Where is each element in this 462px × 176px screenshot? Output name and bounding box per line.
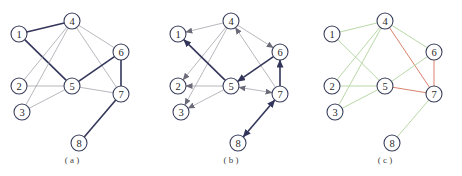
node-4: 4 xyxy=(64,13,80,29)
node-label: 7 xyxy=(431,89,436,100)
node-label: 2 xyxy=(329,81,334,92)
panel-b: 12345678( b ) xyxy=(170,13,288,165)
edge-1-5 xyxy=(338,40,380,81)
edge-4-3 xyxy=(339,28,381,105)
node-label: 1 xyxy=(329,29,334,40)
edge-7-8 xyxy=(243,100,275,137)
node-1: 1 xyxy=(170,26,186,42)
edge-4-6 xyxy=(238,25,273,47)
edge-4-3 xyxy=(26,28,68,105)
node-label: 5 xyxy=(382,81,387,92)
node-label: 8 xyxy=(389,138,394,149)
edge-1-5 xyxy=(25,40,67,81)
edge-5-3 xyxy=(188,90,224,109)
node-2: 2 xyxy=(170,78,186,94)
node-label: 8 xyxy=(76,138,81,149)
node-label: 4 xyxy=(228,16,234,27)
edge-5-6 xyxy=(392,57,428,82)
graph-figure: 12345678( a )12345678( b )12345678( c ) xyxy=(0,0,462,176)
node-6: 6 xyxy=(426,44,442,60)
node-5: 5 xyxy=(223,78,239,94)
panel-caption: ( c ) xyxy=(378,155,393,165)
node-1: 1 xyxy=(324,26,340,42)
node-3: 3 xyxy=(327,104,343,120)
edge-7-8 xyxy=(397,100,429,137)
node-8: 8 xyxy=(230,135,246,151)
node-6: 6 xyxy=(113,44,129,60)
edge-5-7 xyxy=(80,87,113,92)
node-7: 7 xyxy=(426,86,442,102)
node-label: 1 xyxy=(175,29,180,40)
edge-5-7 xyxy=(239,87,272,92)
node-label: 1 xyxy=(16,29,21,40)
node-5: 5 xyxy=(64,78,80,94)
node-3: 3 xyxy=(173,104,189,120)
edge-4-1 xyxy=(186,23,223,32)
panels-layer: 12345678( a )12345678( b )12345678( c ) xyxy=(11,13,442,165)
edge-1-4 xyxy=(340,23,377,32)
edge-6-5 xyxy=(238,57,274,82)
node-label: 7 xyxy=(118,89,123,100)
edge-7-8 xyxy=(84,100,116,137)
edge-4-6 xyxy=(79,25,114,47)
node-label: 7 xyxy=(277,89,282,100)
panel-c: 12345678( c ) xyxy=(324,13,442,165)
edge-4-2 xyxy=(337,27,380,80)
edge-5-1 xyxy=(184,40,226,81)
edge-4-2 xyxy=(183,27,226,80)
panel-caption: ( a ) xyxy=(65,155,80,165)
node-label: 5 xyxy=(69,81,74,92)
node-label: 2 xyxy=(175,81,180,92)
node-label: 3 xyxy=(332,107,337,118)
node-8: 8 xyxy=(384,135,400,151)
panel-a: 12345678( a ) xyxy=(11,13,129,165)
edge-4-3 xyxy=(185,28,227,105)
node-label: 6 xyxy=(118,47,123,58)
node-label: 2 xyxy=(16,81,21,92)
panel-caption: ( b ) xyxy=(224,155,239,165)
node-label: 6 xyxy=(277,47,282,58)
node-label: 5 xyxy=(228,81,233,92)
edge-5-7 xyxy=(393,87,426,92)
node-label: 4 xyxy=(382,16,388,27)
edge-1-4 xyxy=(27,23,64,32)
node-7: 7 xyxy=(113,86,129,102)
edge-5-6 xyxy=(79,57,115,82)
edge-3-5 xyxy=(29,90,65,109)
node-7: 7 xyxy=(272,86,288,102)
node-1: 1 xyxy=(11,26,27,42)
node-4: 4 xyxy=(377,13,393,29)
node-2: 2 xyxy=(324,78,340,94)
node-4: 4 xyxy=(223,13,239,29)
node-label: 6 xyxy=(431,47,436,58)
node-6: 6 xyxy=(272,44,288,60)
edge-3-5 xyxy=(342,90,378,109)
node-3: 3 xyxy=(14,104,30,120)
node-5: 5 xyxy=(377,78,393,94)
node-label: 4 xyxy=(69,16,75,27)
node-2: 2 xyxy=(11,78,27,94)
node-label: 8 xyxy=(235,138,240,149)
edge-4-6 xyxy=(392,25,427,47)
node-label: 3 xyxy=(178,107,183,118)
node-8: 8 xyxy=(71,135,87,151)
node-label: 3 xyxy=(19,107,24,118)
edge-4-2 xyxy=(24,27,67,80)
